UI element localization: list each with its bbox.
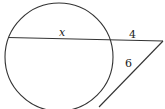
secant-line [8, 38, 163, 42]
geometry-diagram: x 4 6 [0, 0, 165, 109]
tangent-line [99, 41, 163, 107]
label-x: x [59, 26, 66, 39]
label-4: 4 [129, 28, 136, 41]
label-6: 6 [125, 57, 132, 70]
circle [5, 3, 113, 109]
